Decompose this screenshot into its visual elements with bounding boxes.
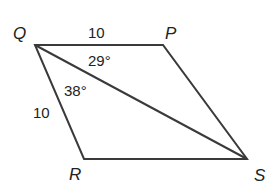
vertex-label-s: S	[254, 166, 266, 185]
parallelogram-diagram: Q P R S 10 29° 38° 10	[0, 0, 269, 185]
side-length-qp: 10	[88, 24, 105, 41]
angle-pqs: 29°	[88, 52, 111, 69]
vertex-label-q: Q	[13, 24, 26, 43]
vertex-label-r: R	[69, 165, 81, 184]
diagonal-qs	[35, 45, 247, 159]
angle-rqs: 38°	[64, 82, 87, 99]
side-length-qr: 10	[33, 104, 50, 121]
vertex-label-p: P	[165, 24, 177, 43]
